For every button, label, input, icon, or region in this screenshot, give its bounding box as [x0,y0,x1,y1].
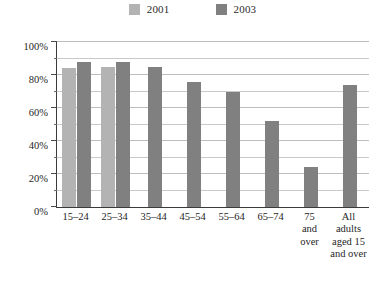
bar-2001 [101,67,115,207]
bar-2003 [343,85,357,207]
legend-label-2003: 2003 [234,4,257,15]
x-axis-tick-label: All adults aged 15 and over [329,211,368,261]
legend-item-2003: 2003 [216,4,257,15]
bar-2003 [116,62,130,207]
x-axis-tick-label: 25–34 [95,211,134,261]
bar-2003 [304,167,318,207]
x-axis-labels: 15–2425–3435–4445–5455–6465–7475 and ove… [56,211,368,261]
bar-group [291,42,330,207]
legend-item-2001: 2001 [129,4,170,15]
bar-groups [57,42,369,207]
bar-group [213,42,252,207]
chart-legend: 2001 2003 [0,4,385,15]
legend-swatch-2001 [129,4,140,15]
bar-group [96,42,135,207]
bar-chart: 2001 2003 0%20%40%60%80%100% 15–2425–343… [0,0,385,281]
bar-2003 [265,121,279,207]
bar-group [135,42,174,207]
x-axis-tick-label: 15–24 [56,211,95,261]
x-axis-tick-label: 65–74 [251,211,290,261]
bar-group [330,42,369,207]
bar-2003 [77,62,91,207]
bar-group [57,42,96,207]
legend-swatch-2003 [216,4,227,15]
bar-2003 [187,82,201,207]
x-axis-tick-label: 35–44 [134,211,173,261]
x-axis-tick-label: 45–54 [173,211,212,261]
bar-2001 [62,68,76,207]
plot-area: 0%20%40%60%80%100% [56,42,369,208]
bar-2003 [148,67,162,207]
bar-2003 [226,92,240,208]
x-axis-tick-label: 75 and over [290,211,329,261]
bar-group [174,42,213,207]
legend-label-2001: 2001 [147,4,170,15]
x-axis-tick-label: 55–64 [212,211,251,261]
bar-group [252,42,291,207]
